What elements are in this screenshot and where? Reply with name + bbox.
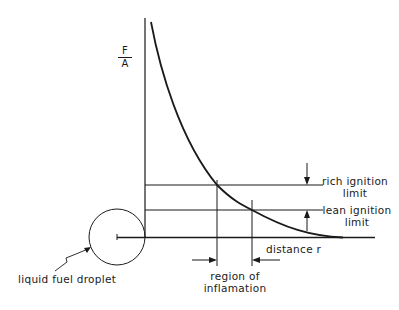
lean-arrow-head bbox=[304, 210, 310, 218]
rich-limit-label-line2: limit bbox=[318, 187, 392, 199]
droplet-leader-line bbox=[55, 249, 88, 271]
region-label-line2: inflamation bbox=[195, 282, 275, 294]
diagram-canvas bbox=[0, 0, 399, 310]
rich-limit-label: rich ignition limit bbox=[318, 175, 392, 199]
y-axis-label-denominator: A bbox=[118, 59, 132, 69]
region-left-arrow-head bbox=[209, 257, 217, 263]
lean-limit-label-line2: limit bbox=[317, 216, 397, 228]
y-axis-label-numerator: F bbox=[118, 46, 132, 56]
droplet-label: liquid fuel droplet bbox=[18, 273, 116, 285]
region-right-arrow-head bbox=[252, 257, 260, 263]
distance-label: distance r bbox=[266, 243, 321, 255]
rich-limit-label-line1: rich ignition bbox=[318, 175, 392, 187]
fuel-air-ratio-curve bbox=[151, 22, 343, 238]
region-label-line1: region of bbox=[195, 270, 275, 282]
lean-limit-label-line1: lean ignition bbox=[317, 204, 397, 216]
region-label: region of inflamation bbox=[195, 270, 275, 294]
rich-arrow-head bbox=[304, 177, 310, 185]
lean-limit-label: lean ignition limit bbox=[317, 204, 397, 228]
y-axis-label: F A bbox=[118, 46, 132, 69]
